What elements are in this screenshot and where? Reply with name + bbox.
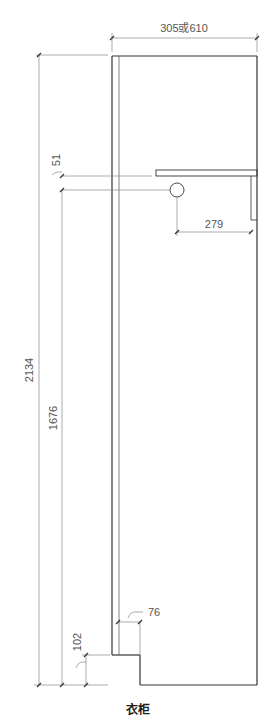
shelf-to-rod-label: 51	[50, 154, 62, 166]
rod-height-label: 1676	[47, 406, 59, 430]
depth-label: 305或610	[160, 22, 208, 34]
toe-kick-depth-label: 76	[148, 606, 160, 618]
diagram-caption: 衣柜	[0, 700, 275, 717]
toe-kick-height-label: 102	[71, 633, 83, 651]
rod-to-back-label: 279	[205, 218, 223, 230]
total-height-label: 2134	[23, 358, 35, 382]
hanging-rod	[170, 183, 184, 197]
dimension-lines	[34, 33, 257, 685]
dimension-ticks	[37, 36, 259, 687]
wardrobe-section-diagram: 305或610 279 76 2134 1676 51 102	[0, 0, 275, 725]
cabinet-outline	[112, 56, 257, 685]
shelf	[156, 170, 257, 220]
